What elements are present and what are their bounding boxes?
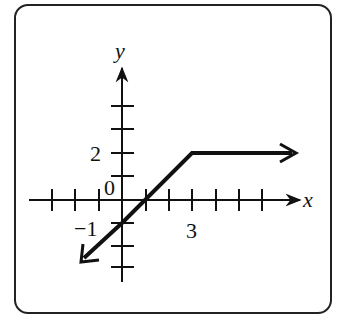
- x-axis-label: x: [302, 187, 313, 212]
- origin-label: 0: [104, 175, 115, 200]
- y-axis-label: y: [113, 38, 125, 63]
- chart-svg: y x 0 2 −1 3: [0, 0, 338, 327]
- x-tick-label-3: 3: [186, 218, 197, 243]
- y-tick-label-2: 2: [90, 141, 101, 166]
- y-tick-label-neg1: −1: [74, 216, 97, 241]
